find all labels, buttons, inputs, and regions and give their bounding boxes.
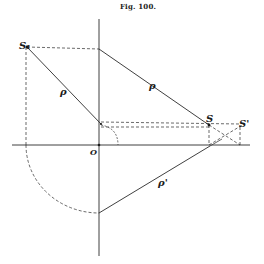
dashed-s1-horizontal (27, 47, 99, 49)
small-dashed-arc (101, 125, 118, 145)
label-s1: S₁ (19, 40, 31, 51)
large-dashed-arc (26, 145, 99, 213)
label-origin: O (90, 147, 97, 157)
s-point (208, 124, 211, 127)
label-rho-upper: ρ (149, 80, 156, 91)
label-rho-lower: ρ' (158, 177, 168, 188)
label-s-prime: S' (239, 118, 249, 129)
label-s: S (206, 113, 213, 124)
inner-point (100, 123, 102, 125)
geometry-diagram (0, 0, 264, 264)
label-rho-left: ρ (60, 86, 67, 97)
rho-line-lower (99, 146, 210, 213)
origin-point (98, 144, 101, 147)
dashed-double-upper (101, 122, 240, 124)
